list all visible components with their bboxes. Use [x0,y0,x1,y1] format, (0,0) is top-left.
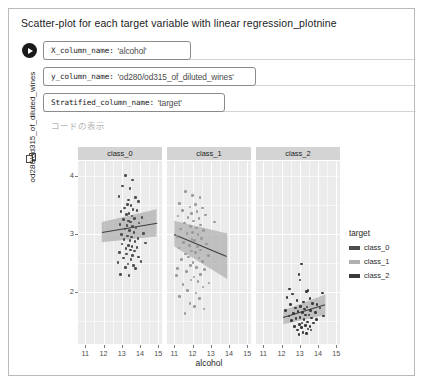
scatter-point [142,232,145,235]
scatter-point [189,302,192,305]
scatter-point [299,305,302,308]
scatter-point [196,245,199,248]
panel-plot-area [167,161,251,344]
scatter-point [298,273,301,276]
panel-plot-area [256,161,340,344]
scatter-point [194,203,197,206]
legend-item: class_2 [349,271,409,280]
x-tick-mark [85,345,86,348]
scatter-point [303,318,306,321]
scatter-point [193,239,196,242]
x-column-name-value: 'alcohol' [118,46,147,56]
scatter-point [134,196,137,199]
scatter-point [126,203,129,206]
scatter-point [144,242,147,245]
x-tick-label: 13 [116,349,128,358]
x-tick-label: 14 [312,349,324,358]
scatter-point [306,321,309,324]
confidence-band [167,161,251,344]
facet-panel-class-0: class_0 [78,147,162,344]
confidence-band [256,161,340,344]
scatter-point [118,251,121,254]
scatter-point [309,309,312,312]
scatter-point [198,217,201,220]
scatter-point [304,314,307,317]
scatter-point [288,288,291,291]
scatter-point [199,249,202,252]
scatter-point [129,239,132,242]
scatter-point [127,244,130,247]
scatter-point [125,247,128,250]
x-column-name-key: X_column_name: [51,46,114,55]
scatter-point [178,295,181,298]
facet-panel-class-2: class_2 [256,147,340,344]
scatter-point [284,309,287,312]
y-column-name-value: 'od280/od315_of_diluted_wines' [118,72,234,82]
x-axis-title: alcohol [78,358,340,368]
y-tick-label: 3 [58,229,74,238]
scatter-point [299,316,302,319]
scatter-point [184,190,187,193]
stratified-column-name-value: 'target' [158,98,182,108]
x-tick-mark [122,345,123,348]
x-tick-label: 13 [294,349,306,358]
y-column-name-key: y_column_name: [51,72,114,81]
show-code-link[interactable]: コードの表示 [51,119,105,131]
scatter-point [293,325,296,328]
run-cell-button[interactable] [22,43,37,58]
x-column-name-field[interactable]: X_column_name: 'alcohol' [43,41,191,60]
scatter-point [129,249,132,252]
facet-strip-label: class_2 [285,149,310,158]
scatter-point [309,325,312,328]
scatter-point [203,268,206,271]
scatter-point [137,200,140,203]
scatter-point [128,229,131,232]
scatter-point [182,241,185,244]
scatter-point [134,267,137,270]
scatter-point [189,264,192,267]
scatter-point [181,209,184,212]
x-tick-mark [247,345,248,348]
scatter-point [191,194,194,197]
stratified-column-name-field[interactable]: Stratified_column_name: 'target' [43,93,225,112]
scatter-point [129,187,132,190]
scatter-point [195,266,198,269]
scatter-point [140,260,143,263]
scatter-point [186,289,189,292]
facet-panel-class-1: class_1 [167,147,251,344]
x-tick-mark [174,345,175,348]
scatter-point [305,332,308,335]
scatter-point [127,199,130,202]
scatter-point [290,319,293,322]
facet-strip-label: class_0 [107,149,132,158]
play-icon [28,48,33,54]
facet-strip-class-1: class_1 [167,147,251,160]
scatter-point [321,292,324,295]
y-tick-label: 4 [58,171,74,180]
scatter-point [125,253,128,256]
scatter-point [133,217,136,220]
scatter-point [184,253,187,256]
scatter-point [133,250,136,253]
scatter-point [315,318,318,321]
x-tick-label: 13 [205,349,217,358]
scatter-point [195,227,198,230]
scatter-point [207,254,210,257]
scatter-point [136,209,139,212]
stratified-column-name-key: Stratified_column_name: [51,98,154,107]
x-tick-label: 15 [241,349,253,358]
scatter-point [199,196,202,199]
y-column-name-field[interactable]: y_column_name: 'od280/od315_of_diluted_w… [43,67,256,86]
scatter-point [300,326,303,329]
scatter-point [122,218,125,221]
scatter-point [137,237,140,240]
scatter-point [185,270,188,273]
x-tick-mark [104,345,105,348]
x-tick-label: 15 [330,349,342,358]
x-tick-label: 12 [98,349,110,358]
scatter-point [125,213,128,216]
x-tick-mark [193,345,194,348]
scatter-point [190,212,193,215]
facet-strip-class-0: class_0 [78,147,162,160]
legend-label: class_0 [364,243,389,252]
